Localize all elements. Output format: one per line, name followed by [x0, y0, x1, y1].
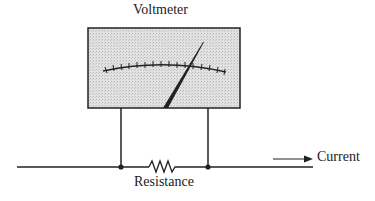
- current-label: Current: [317, 149, 360, 165]
- voltmeter: [88, 28, 240, 108]
- junction-left: [118, 164, 123, 169]
- circuit-diagram: [0, 0, 375, 201]
- resistance-label: Resistance: [134, 174, 194, 190]
- resistor-zigzag: [149, 161, 178, 172]
- current-arrow-icon: [273, 156, 313, 163]
- meter-face: [88, 28, 240, 108]
- voltmeter-label: Voltmeter: [133, 2, 188, 18]
- junction-right: [205, 164, 210, 169]
